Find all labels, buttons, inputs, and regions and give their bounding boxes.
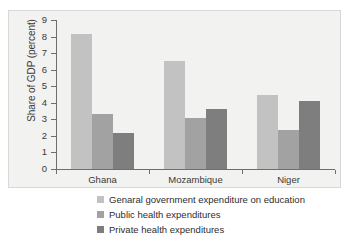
legend-item[interactable]: Public health expenditures: [8, 207, 341, 222]
bar: [164, 61, 185, 169]
legend-label: Genaral government expenditure on educat…: [109, 195, 305, 205]
bars-layer: [9, 11, 340, 169]
x-axis-category-label: Mozambique: [149, 175, 242, 185]
legend-item[interactable]: Genaral government expenditure on educat…: [8, 192, 341, 207]
x-axis-tick: [242, 170, 243, 174]
legend-swatch: [97, 226, 104, 233]
bar: [71, 34, 92, 169]
legend-swatch: [97, 196, 104, 203]
x-axis-tick: [56, 170, 57, 174]
bar: [257, 95, 278, 169]
chart-legend: Genaral government expenditure on educat…: [8, 192, 341, 237]
legend-item[interactable]: Private health expenditures: [8, 222, 341, 237]
legend-label: Public health expenditures: [109, 210, 220, 220]
bar: [278, 130, 299, 169]
bar: [185, 118, 206, 169]
x-axis-line: [56, 169, 335, 170]
bar: [113, 133, 134, 169]
bar-group: [257, 11, 320, 169]
bar: [92, 114, 113, 169]
legend-label: Private health expenditures: [109, 225, 224, 235]
x-axis-tick: [335, 170, 336, 174]
chart-figure: Share of GDP (percent) 9876543210 GhanaM…: [0, 0, 349, 251]
x-axis-category-label: Niger: [242, 175, 335, 185]
legend-swatch: [97, 211, 104, 218]
bar: [299, 101, 320, 169]
bar: [206, 109, 227, 169]
x-axis-tick: [149, 170, 150, 174]
bar-group: [164, 11, 227, 169]
x-axis-category-label: Ghana: [56, 175, 149, 185]
bar-group: [71, 11, 134, 169]
plot-area: Share of GDP (percent) 9876543210 GhanaM…: [8, 10, 341, 188]
